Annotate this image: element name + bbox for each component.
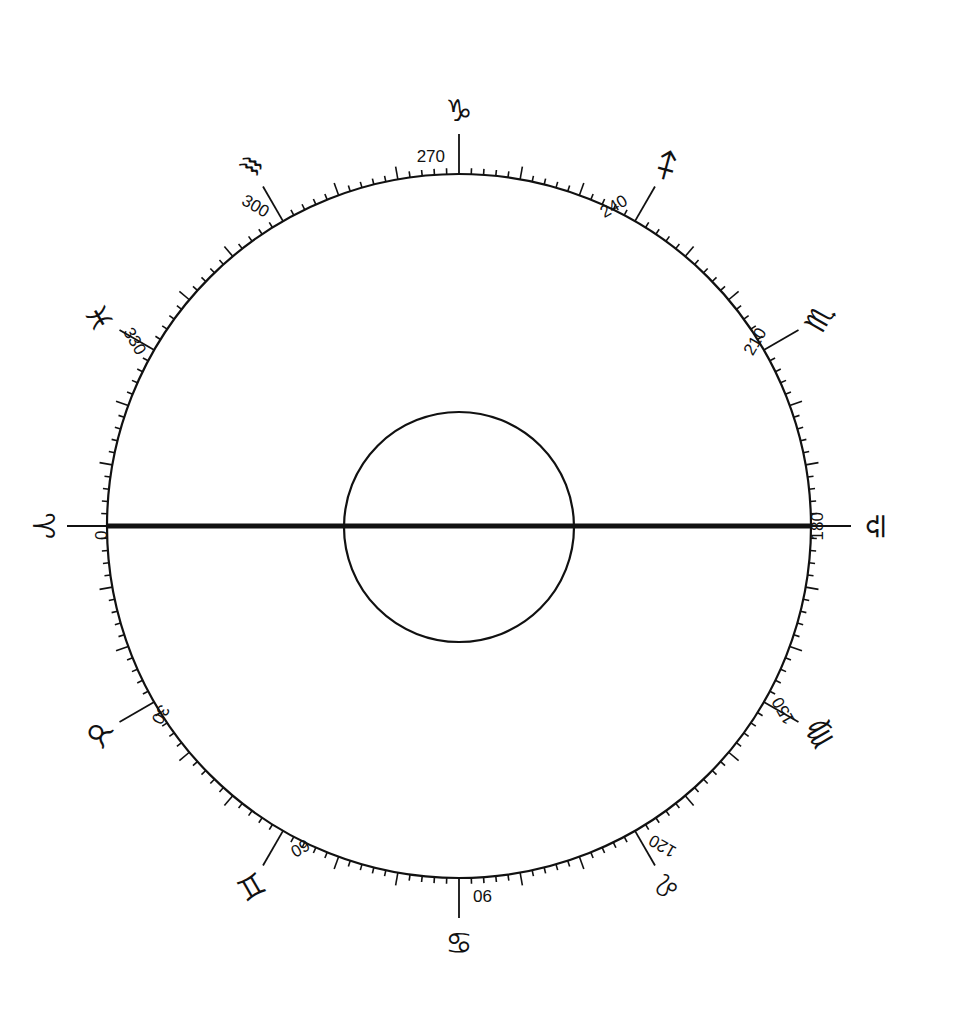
major-mark-gemini: 60♊	[231, 831, 314, 908]
degree-tick	[729, 752, 739, 760]
degree-tick	[224, 796, 232, 806]
major-mark-leo: 120♌	[635, 831, 687, 909]
major-tick	[635, 187, 655, 222]
virgo-sign-icon: ♍	[797, 714, 841, 755]
degree-tick	[334, 183, 338, 195]
major-tick	[764, 330, 799, 350]
degree-tick	[579, 857, 583, 869]
aquarius-sign-icon: ♒	[231, 144, 272, 188]
degree-label: 90	[473, 886, 492, 905]
degree-label: 180	[808, 512, 827, 540]
degree-tick	[396, 167, 398, 180]
degree-tick	[179, 291, 189, 299]
scorpio-sign-icon: ♏	[797, 298, 841, 339]
major-mark-libra: 180♎	[808, 512, 893, 540]
degree-tick	[806, 587, 819, 589]
degree-tick	[100, 463, 113, 465]
major-tick	[263, 831, 283, 866]
major-mark-taurus: 30♉	[77, 702, 174, 755]
degree-tick	[116, 646, 128, 650]
aries-sign-icon: ♈	[26, 513, 61, 540]
degree-tick	[790, 401, 802, 405]
degree-tick	[224, 246, 232, 256]
leo-sign-icon: ♌	[647, 864, 688, 908]
major-mark-virgo: 150♍	[764, 694, 841, 755]
pisces-sign-icon: ♓	[77, 298, 121, 339]
degree-label: 150	[768, 694, 799, 728]
libra-sign-icon: ♎	[858, 513, 893, 540]
degree-tick	[100, 587, 113, 589]
degree-label: 270	[417, 147, 445, 166]
degree-label: 30	[148, 702, 174, 728]
major-mark-capricorn: 270♑	[417, 93, 473, 175]
degree-tick	[520, 167, 522, 180]
cancer-sign-icon: ♋	[446, 925, 473, 960]
degree-label: 60	[287, 835, 313, 861]
major-mark-scorpio: 210♏	[740, 298, 841, 359]
degree-tick	[116, 401, 128, 405]
sagittarius-sign-icon: ♐	[647, 144, 688, 188]
degree-label: 0	[91, 531, 110, 540]
degree-tick	[806, 463, 819, 465]
degree-label: 330	[119, 324, 150, 358]
degree-tick	[396, 873, 398, 886]
gemini-sign-icon: ♊	[231, 864, 272, 908]
degree-tick	[579, 183, 583, 195]
major-mark-pisces: 330♓	[77, 298, 154, 359]
major-tick	[120, 702, 155, 722]
capricorn-sign-icon: ♑	[446, 93, 473, 128]
major-mark-aries: 0♈	[26, 513, 111, 540]
degree-tick	[334, 857, 338, 869]
degree-tick	[729, 291, 739, 299]
degree-tick	[685, 796, 693, 806]
degree-tick	[179, 752, 189, 760]
major-mark-sagittarius: 240♐	[597, 144, 688, 222]
degree-tick	[685, 246, 693, 256]
major-mark-aquarius: 300♒	[231, 144, 283, 222]
major-mark-cancer: 90♋	[446, 878, 492, 960]
taurus-sign-icon: ♉	[77, 714, 121, 755]
degree-tick	[520, 873, 522, 886]
degree-tick	[790, 646, 802, 650]
zodiac-dial: 0♈30♉60♊90♋120♌150♍180♎210♏240♐270♑300♒3…	[0, 0, 954, 1031]
